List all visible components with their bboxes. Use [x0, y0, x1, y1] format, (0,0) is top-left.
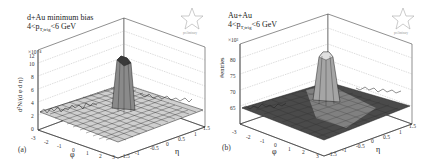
- z-tick: 0.5: [383, 134, 390, 140]
- title-prefix: 4<p: [27, 22, 40, 31]
- title-suffix: <6 GeV: [50, 22, 76, 31]
- panel-b: ×10³ 65 70 75 80 #entries -3 -2 -1 0 1 2…: [216, 0, 431, 159]
- title-line2: 4<pT,trig<6 GeV: [228, 21, 277, 32]
- z-tick: -0.5: [356, 143, 365, 149]
- y-tick: 2: [31, 113, 34, 119]
- z-tick: -1: [135, 150, 140, 156]
- panel-label: (a): [18, 145, 27, 154]
- x-axis-label: φ: [70, 150, 75, 159]
- title-sub: T,trig: [241, 25, 252, 30]
- x-axis-b: -3 -2 -1 0 1 2 3 φ: [232, 129, 319, 159]
- x-tick: -2: [44, 139, 49, 145]
- y-axis-label: #entries: [218, 57, 225, 78]
- title-prefix: 4<p: [228, 20, 241, 29]
- z-tick: 0: [166, 141, 169, 147]
- y-axis-b: ×10³ 65 70 75 80 #entries: [218, 37, 239, 111]
- z-tick: -1.5: [328, 151, 337, 157]
- z-tick: 1.5: [409, 123, 416, 129]
- x-tick: 2: [99, 153, 102, 159]
- x-tick: -3: [232, 129, 237, 135]
- z-tick: 0: [371, 138, 374, 144]
- y-multiplier: ×10³: [228, 37, 239, 43]
- z-tick: 1: [399, 129, 402, 135]
- y-tick: 4: [31, 100, 34, 106]
- x-tick: 2: [302, 149, 305, 155]
- z-tick: 1.5: [203, 125, 210, 131]
- x-tick: 1: [288, 146, 291, 152]
- panel-title-a: d+Au minimum bias 4<pT,trig<6 GeV: [27, 14, 93, 34]
- y-axis-label: d²N/(d φ d η): [16, 77, 24, 112]
- y-tick: 80: [230, 57, 236, 63]
- panel-title-b: Au+Au 4<pT,trig<6 GeV: [228, 12, 277, 32]
- x-tick: 3: [316, 153, 319, 159]
- z-tick: 1: [194, 131, 197, 137]
- logo-text: preliminary: [394, 31, 408, 35]
- y-tick: 8: [31, 74, 34, 80]
- y-tick: 65: [230, 105, 236, 111]
- z-tick: -1.5: [121, 153, 130, 159]
- z-tick: -0.5: [150, 145, 159, 151]
- y-tick: 12: [29, 53, 35, 59]
- title-sub: T,trig: [40, 27, 51, 32]
- logo-text: preliminary: [183, 31, 197, 35]
- y-tick: 0: [31, 126, 34, 132]
- title-suffix: <6 GeV: [251, 20, 277, 29]
- x-axis-label: φ: [272, 147, 277, 156]
- y-tick: 6: [31, 87, 34, 93]
- x-axis-a: -3 -2 -1 0 1 2 3 φ: [31, 135, 115, 159]
- y-tick: 10: [29, 61, 35, 67]
- x-tick: -2: [246, 134, 251, 140]
- y-tick: 70: [230, 89, 236, 95]
- y-tick: 75: [230, 73, 236, 79]
- z-tick: 0.5: [178, 136, 185, 142]
- z-axis-label: η: [376, 145, 380, 154]
- panel-a: ×10⁻⁴ 0 2 4 6 8 10 12 d²N/(d φ d η) -3 -…: [0, 0, 215, 159]
- x-tick: 3: [112, 154, 115, 159]
- z-axis-label: η: [175, 147, 179, 156]
- x-tick: -3: [31, 135, 36, 141]
- title-line1: Au+Au: [228, 12, 277, 20]
- star-logo-icon: [392, 8, 414, 29]
- star-logo-icon: [181, 8, 203, 29]
- panel-label: (b): [222, 143, 231, 152]
- title-line1: d+Au minimum bias: [27, 14, 93, 22]
- x-tick: -1: [57, 143, 62, 149]
- title-line2: 4<pT,trig<6 GeV: [27, 23, 93, 34]
- z-tick: -1: [342, 147, 347, 153]
- x-tick: -1: [260, 138, 265, 144]
- x-tick: 1: [86, 150, 89, 156]
